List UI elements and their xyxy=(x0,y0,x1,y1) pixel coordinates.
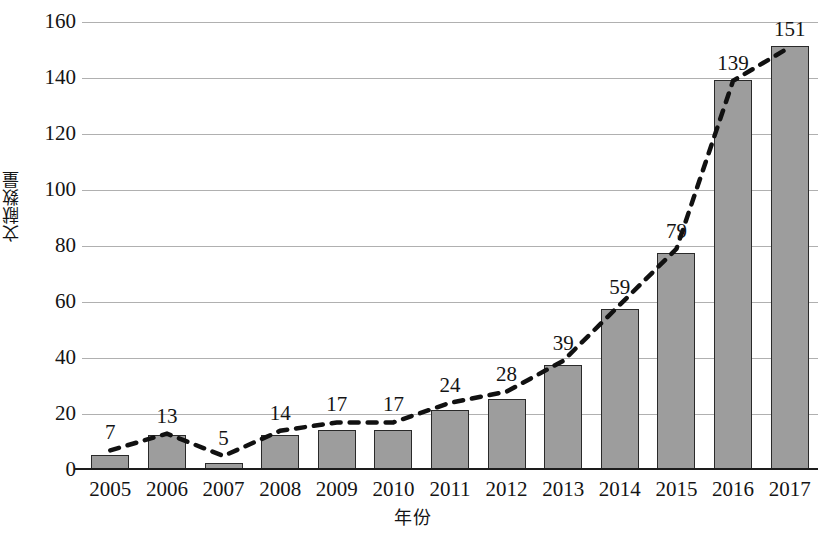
bar xyxy=(601,309,639,469)
x-axis-tick-label: 2016 xyxy=(703,478,763,500)
data-label: 17 xyxy=(309,394,365,415)
bar xyxy=(318,430,356,469)
bar xyxy=(374,430,412,469)
x-axis-tick-label: 2017 xyxy=(760,478,820,500)
data-label: 79 xyxy=(648,221,704,242)
y-axis-tick-label: 140 xyxy=(28,67,76,88)
x-axis-tick-label: 2010 xyxy=(363,478,423,500)
bar xyxy=(544,365,582,469)
data-label: 24 xyxy=(422,375,478,396)
x-axis-tick-label: 2008 xyxy=(250,478,310,500)
x-axis-tick-label: 2009 xyxy=(307,478,367,500)
gridline xyxy=(82,78,818,79)
data-label: 5 xyxy=(196,428,252,449)
gridline xyxy=(82,22,818,23)
bar xyxy=(771,46,809,469)
y-axis-tick-label: 160 xyxy=(28,11,76,32)
data-label: 28 xyxy=(479,364,535,385)
gridline xyxy=(82,190,818,191)
data-label: 151 xyxy=(762,19,818,40)
x-axis-tick-label: 2015 xyxy=(646,478,706,500)
data-label: 13 xyxy=(139,406,195,427)
x-axis-tick-label: 2007 xyxy=(194,478,254,500)
data-label: 139 xyxy=(705,53,761,74)
bar xyxy=(148,435,186,469)
y-axis-tick-label: 20 xyxy=(28,403,76,424)
gridline xyxy=(82,302,818,303)
bar xyxy=(488,399,526,469)
data-label: 14 xyxy=(252,403,308,424)
x-axis-tick-label: 2011 xyxy=(420,478,480,500)
x-axis-line xyxy=(82,468,818,470)
data-label: 59 xyxy=(592,277,648,298)
data-label: 39 xyxy=(535,333,591,354)
y-axis-tick-label: 40 xyxy=(28,347,76,368)
y-axis-title: 文献数量 xyxy=(2,170,24,242)
y-axis-tick-label: 100 xyxy=(28,179,76,200)
y-axis-origin-cap xyxy=(74,468,83,470)
gridline xyxy=(82,246,818,247)
x-axis-tick-label: 2012 xyxy=(477,478,537,500)
bar xyxy=(714,80,752,469)
x-axis-tick-label: 2005 xyxy=(80,478,140,500)
y-axis-tick-label: 120 xyxy=(28,123,76,144)
x-axis-tick-label: 2013 xyxy=(533,478,593,500)
gridline xyxy=(82,134,818,135)
y-axis-tick-label: 60 xyxy=(28,291,76,312)
gridline xyxy=(82,358,818,359)
bar xyxy=(91,455,129,469)
y-axis-tick-label: 80 xyxy=(28,235,76,256)
bar xyxy=(261,435,299,469)
bar xyxy=(657,253,695,469)
x-axis-tick-label: 2006 xyxy=(137,478,197,500)
data-label: 7 xyxy=(82,422,138,443)
bar-chart: 文献数量 020406080100120140160 7135141717242… xyxy=(0,0,826,543)
y-axis-tick-label: 0 xyxy=(28,459,76,480)
bar xyxy=(431,410,469,469)
x-axis-title: 年份 xyxy=(0,508,826,528)
x-axis-tick-label: 2014 xyxy=(590,478,650,500)
data-label: 17 xyxy=(365,394,421,415)
plot-area: 71351417172428395979139151 xyxy=(82,22,818,470)
